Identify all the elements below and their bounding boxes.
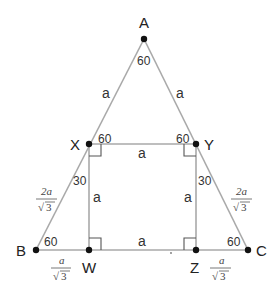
point-W	[86, 247, 92, 253]
fraction-ZC-numerator: a	[219, 254, 225, 266]
angle-label-B: 60	[44, 235, 58, 249]
side-label-XY: a	[138, 145, 146, 161]
angle-label-C: 60	[227, 235, 241, 249]
fraction-XB-numerator: 2a	[41, 185, 53, 197]
fraction-label-ZC: a √ 3	[210, 254, 231, 282]
side-label-AY: a	[176, 85, 184, 101]
angle-label-Y-lower: 30	[198, 174, 212, 188]
fraction-XB-denominator: 3	[46, 201, 52, 213]
side-label-YZ: a	[184, 189, 192, 205]
angle-label-X: 60	[98, 132, 112, 146]
vertex-label-W: W	[82, 259, 97, 276]
fraction-YC-denominator: 3	[241, 201, 247, 213]
point-X	[86, 141, 92, 147]
point-Y	[193, 141, 199, 147]
fraction-label-YC: 2a √ 3	[231, 185, 252, 213]
angle-label-Y: 60	[176, 132, 190, 146]
vertex-label-A: A	[139, 14, 149, 31]
side-label-AX: a	[102, 85, 110, 101]
vertex-label-B: B	[16, 242, 26, 259]
side-label-XW: a	[93, 189, 101, 205]
point-C	[245, 247, 251, 253]
angle-label-A: 60	[137, 54, 151, 68]
side-label-WZ: a	[138, 233, 146, 249]
fraction-BW-numerator: a	[59, 254, 65, 266]
fraction-label-XB: 2a √ 3	[36, 185, 57, 213]
fraction-YC-root: √	[233, 201, 240, 213]
vertex-label-X: X	[70, 136, 80, 153]
vertex-label-Z: Z	[190, 259, 199, 276]
point-A	[141, 36, 147, 42]
fraction-YC-numerator: 2a	[236, 185, 248, 197]
point-B	[33, 247, 39, 253]
fraction-ZC-denominator: 3	[220, 270, 226, 282]
fraction-BW-root: √	[53, 270, 60, 282]
fraction-XB-root: √	[38, 201, 45, 213]
stray-dot	[170, 252, 172, 254]
fraction-ZC-root: √	[212, 270, 219, 282]
point-Z	[193, 247, 199, 253]
fraction-BW-denominator: 3	[61, 270, 67, 282]
vertex-label-Y: Y	[204, 136, 214, 153]
angle-label-X-lower: 30	[73, 174, 87, 188]
geometry-diagram: A X Y B W Z C a a a a a a 60 60 60 30 30…	[0, 0, 280, 291]
fraction-label-BW: a √ 3	[51, 254, 71, 282]
vertex-label-C: C	[256, 242, 267, 259]
